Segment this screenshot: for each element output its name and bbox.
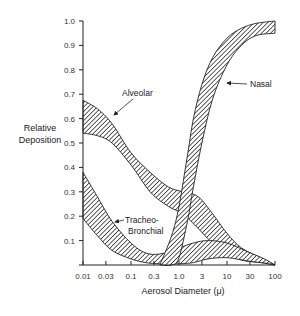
x-tick-label: 30 [245,272,254,281]
x-tick-label: 0.1 [125,272,137,281]
deposition-bands [83,21,275,266]
y-tick-label: 0.8 [64,66,76,75]
tracheobronchial-annotation: Tracheo- Bronchial [115,215,164,236]
tracheobronchial-label-line2: Bronchial [128,226,164,236]
y-tick-label: 0.6 [64,115,76,124]
y-tick-label: 0.2 [64,212,76,221]
y-tick-label: 0.1 [64,237,76,246]
nasal-label: Nasal [250,79,272,89]
deposition-chart: 0.10.20.30.40.50.60.70.80.91.0 0.010.030… [0,0,300,316]
alveolar-annotation: Alveolar [114,88,153,115]
x-tick-label: 100 [268,272,282,281]
nasal-annotation: Nasal [227,79,272,89]
y-tick-label: 0.5 [64,139,76,148]
x-tick-label: 1.0 [173,272,185,281]
y-tick-label: 0.4 [64,163,76,172]
y-tick-label: 1.0 [64,17,76,26]
y-tick-label: 0.3 [64,188,76,197]
y-axis-title: Relative Deposition [19,123,62,145]
x-axis-title: Aerosol Diameter (μ) [141,286,224,296]
x-tick-label: 3 [200,272,205,281]
x-tick-label: 0.01 [75,272,91,281]
tracheobronchial-arrow-icon [115,220,124,222]
alveolar-arrow-icon [114,99,133,115]
y-tick-label: 0.9 [64,41,76,50]
x-ticks: 0.010.030.10.31.031030100 [75,261,282,281]
y-tick-label: 0.7 [64,90,76,99]
nasal-arrow-icon [227,83,247,84]
y-axis-title-line1: Relative [24,123,57,133]
tracheobronchial-label-line1: Tracheo- [125,215,159,225]
x-tick-label: 10 [223,272,232,281]
x-tick-label: 0.3 [148,272,160,281]
y-ticks: 0.10.20.30.40.50.60.70.80.91.0 [64,17,83,246]
alveolar-label: Alveolar [122,88,153,98]
y-axis-title-line2: Deposition [19,135,62,145]
x-tick-label: 0.03 [98,272,114,281]
